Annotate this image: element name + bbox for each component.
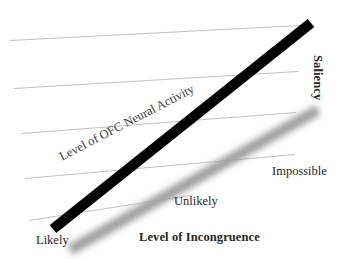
x-tick-unlikely: Unlikely — [174, 194, 218, 209]
x-tick-impossible: Impossible — [272, 164, 327, 179]
plot-canvas — [0, 0, 363, 259]
figure-container: Level of OFC Neural Activity Saliency Li… — [0, 0, 363, 259]
x-axis-title: Level of Incongruence — [139, 230, 260, 245]
gridline-3 — [21, 113, 296, 134]
gridlines — [10, 26, 300, 221]
y-axis-title: Saliency — [310, 55, 325, 100]
gridline-1 — [10, 26, 300, 41]
x-tick-likely: Likely — [36, 233, 69, 248]
